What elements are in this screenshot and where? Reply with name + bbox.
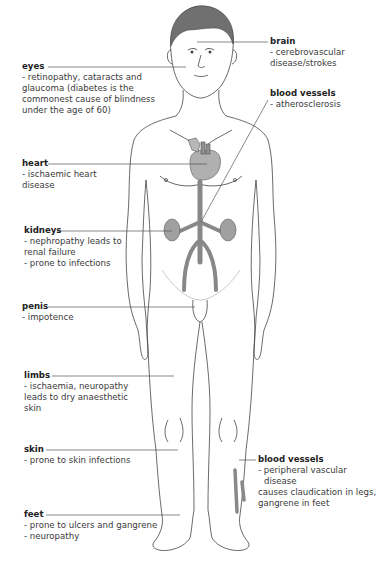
- label-desc: - peripheral vascular disease: [258, 465, 382, 487]
- label-desc: disease/strokes: [270, 58, 345, 69]
- label-kidneys: kidneys - nephropathy leads to renal fai…: [24, 225, 122, 269]
- label-feet: feet - prone to ulcers and gangrene - ne…: [24, 509, 157, 542]
- label-desc: disease: [22, 180, 97, 191]
- label-heart: heart - ischaemic heart disease: [22, 158, 97, 191]
- label-desc: skin: [24, 403, 128, 414]
- label-brain: brain - cerebrovascular disease/strokes: [270, 36, 345, 69]
- label-limbs: limbs - ischaemia, neuropathy leads to d…: [24, 370, 128, 414]
- label-title: heart: [22, 158, 97, 169]
- label-title: brain: [270, 36, 345, 47]
- label-blood-vessels-upper: blood vessels - atherosclerosis: [270, 88, 341, 110]
- label-desc: commonest cause of blindness: [22, 94, 155, 105]
- label-title: limbs: [24, 370, 128, 381]
- label-desc: gangrene in feet: [258, 498, 382, 509]
- label-desc: - prone to ulcers and gangrene: [24, 520, 157, 531]
- label-desc: causes claudication in legs,: [258, 487, 382, 498]
- label-desc: - ischaemic heart: [22, 169, 97, 180]
- label-desc: - prone to skin infections: [24, 455, 131, 466]
- label-desc: leads to dry anaesthetic: [24, 392, 128, 403]
- label-penis: penis - impotence: [22, 301, 74, 323]
- heart-organ: [188, 138, 221, 180]
- label-blood-vessels-lower: blood vessels - peripheral vascular dise…: [258, 454, 382, 509]
- label-skin: skin - prone to skin infections: [24, 444, 131, 466]
- label-desc: - neuropathy: [24, 531, 157, 542]
- label-desc: - nephropathy leads to: [24, 236, 122, 247]
- label-desc: - cerebrovascular: [270, 47, 345, 58]
- label-title: skin: [24, 444, 131, 455]
- label-desc: under the age of 60): [22, 105, 155, 116]
- label-title: penis: [22, 301, 74, 312]
- label-title: feet: [24, 509, 157, 520]
- label-eyes: eyes - retinopathy, cataracts and glauco…: [22, 61, 155, 116]
- label-title: kidneys: [24, 225, 122, 236]
- label-desc: - prone to infections: [24, 258, 122, 269]
- label-title: blood vessels: [258, 454, 382, 465]
- label-desc: - retinopathy, cataracts and: [22, 72, 155, 83]
- label-desc: - impotence: [22, 312, 74, 323]
- label-desc: glaucoma (diabetes is the: [22, 83, 155, 94]
- label-desc: - ischaemia, neuropathy: [24, 381, 128, 392]
- label-desc: renal failure: [24, 247, 122, 258]
- label-desc: - atherosclerosis: [270, 99, 341, 110]
- label-title: blood vessels: [270, 88, 341, 99]
- label-title: eyes: [22, 61, 155, 72]
